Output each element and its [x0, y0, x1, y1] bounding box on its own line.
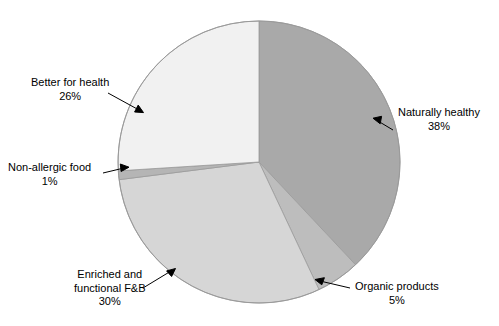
slice-label-name: Organic products	[355, 280, 439, 294]
pie-slice-better-for-health[interactable]	[118, 21, 259, 171]
slice-label-value: 26%	[31, 90, 109, 104]
pie-chart: Better for health 26% Non-allergic food …	[0, 0, 499, 326]
pie-slices	[118, 21, 400, 303]
slice-label-name-line2: functional F&B	[74, 282, 146, 296]
slice-label-non-allergic-food: Non-allergic food 1%	[8, 161, 91, 188]
slice-label-organic-products: Organic products 5%	[355, 280, 439, 307]
slice-label-value: 5%	[355, 294, 439, 308]
slice-label-enriched-functional-fb: Enriched and functional F&B 30%	[74, 268, 146, 309]
slice-label-value: 38%	[398, 120, 480, 134]
leader-line-enriched-functional-fb	[143, 271, 171, 288]
slice-label-name: Non-allergic food	[8, 161, 91, 175]
slice-label-better-for-health: Better for health 26%	[31, 76, 109, 103]
slice-label-name-line1: Enriched and	[74, 268, 146, 282]
slice-label-value: 1%	[8, 175, 91, 189]
slice-label-value: 30%	[74, 295, 146, 309]
slice-label-name: Better for health	[31, 76, 109, 90]
slice-label-naturally-healthy: Naturally healthy 38%	[398, 106, 480, 133]
slice-label-name: Naturally healthy	[398, 106, 480, 120]
